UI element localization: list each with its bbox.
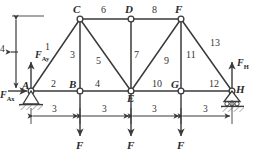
member-label-3: 3 — [70, 50, 75, 60]
reaction-label-FAx: FAx — [0, 90, 15, 103]
roller-wheel — [235, 102, 239, 106]
joint-D — [128, 16, 134, 22]
reaction-symbol-base: F — [237, 57, 244, 68]
joint-label-F: F — [175, 4, 182, 15]
joint-label-A: A — [22, 80, 29, 91]
joint-label-G: G — [171, 79, 179, 90]
reaction-symbol-sub: Ay — [42, 55, 49, 62]
member-5 — [80, 19, 131, 91]
member-label-4: 4 — [95, 79, 100, 89]
load-label-E: F — [127, 140, 134, 151]
joint-C — [77, 16, 83, 22]
dimension-label-height: 4 — [0, 45, 5, 55]
reaction-symbol-base: F — [0, 89, 7, 100]
member-label-7: 7 — [134, 50, 139, 60]
member-label-2: 2 — [51, 79, 56, 89]
member-label-13: 13 — [210, 38, 220, 48]
joint-label-E: E — [127, 93, 134, 104]
member-label-12: 12 — [209, 79, 219, 89]
load-label-B: F — [76, 140, 83, 151]
joint-F — [178, 16, 184, 22]
pin-support-A — [19, 91, 43, 110]
truss-diagram-figure: A B C D E F G H 1 2 3 4 5 6 7 8 9 10 11 … — [0, 0, 258, 158]
member-label-10: 10 — [152, 79, 162, 89]
joint-B — [77, 88, 83, 94]
member-label-5: 5 — [96, 56, 101, 66]
member-label-6: 6 — [101, 5, 106, 15]
reaction-symbol-base: F — [35, 49, 42, 60]
truss-members — [31, 19, 232, 91]
dimension-label-span-3: 3 — [152, 105, 157, 115]
member-label-11: 11 — [186, 50, 196, 60]
joint-label-H: H — [236, 84, 245, 95]
truss-drawing-canvas — [0, 0, 258, 158]
joint-label-C: C — [73, 4, 80, 15]
reaction-symbol-sub: Ax — [7, 95, 15, 102]
reaction-label-FH: FH — [237, 58, 249, 71]
joint-label-D: D — [125, 4, 133, 15]
joint-label-B: B — [69, 79, 76, 90]
dimension-label-span-1: 3 — [52, 105, 57, 115]
member-label-8: 8 — [152, 5, 157, 15]
reaction-label-FAy: FAy — [35, 50, 49, 63]
roller-wheel — [225, 102, 229, 106]
reaction-symbol-sub: H — [244, 63, 249, 70]
dimension-label-span-2: 3 — [102, 105, 107, 115]
dimension-label-span-4: 3 — [203, 105, 208, 115]
member-label-9: 9 — [164, 56, 169, 66]
load-label-G: F — [177, 140, 184, 151]
